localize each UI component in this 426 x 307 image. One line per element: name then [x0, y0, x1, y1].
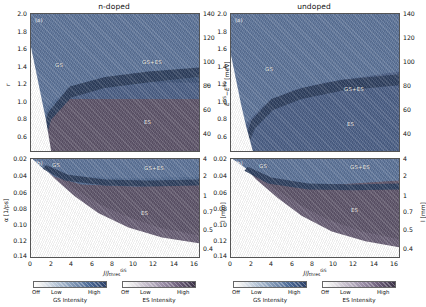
panel-label-a-left: (a)	[35, 17, 43, 23]
ytick-top-left-1: 1.8	[6, 28, 27, 35]
ytick-bot-right-2: 0.06	[203, 189, 227, 196]
region-label-es: ES	[144, 119, 151, 125]
ytick-bot-right-3: 0.08	[203, 205, 227, 212]
ytick-bot-left-2: 0.06	[3, 189, 27, 196]
colorbar-gs-left-tick-high: High	[88, 289, 100, 295]
region-label-gs: GS	[259, 163, 267, 169]
ytick-top-left-right-4: 60	[203, 106, 211, 113]
ylabel-top-left: r	[4, 84, 11, 86]
ytick-top-left-3: 1.4	[6, 63, 27, 70]
xlabel-left: J/JthresGS	[80, 268, 150, 277]
colorbar-gs-right-tick-off: Off	[232, 289, 240, 295]
ytick-bot-right-right-4: 0.5	[403, 226, 413, 233]
xtick-right-6: 12	[346, 260, 360, 267]
region-label-gs-es: GS+ES	[350, 164, 370, 170]
xtick-right-5: 10	[326, 260, 340, 267]
ytick-bot-right-0: 0.02	[203, 155, 227, 162]
xtick-left-6: 12	[146, 260, 160, 267]
ytick-bot-right-right-2: 1	[403, 192, 407, 199]
column-title-left: n-doped	[28, 2, 200, 11]
ytick-top-right-right-4: 60	[403, 106, 411, 113]
ytick-top-right-right-2: 100	[403, 58, 415, 65]
ytick-top-right-0: 2.0	[206, 10, 227, 17]
panel-label-a-right: (a)	[235, 17, 243, 23]
ytick-bot-right-4: 0.10	[203, 221, 227, 228]
ytick-bot-right-right-0: 4	[403, 155, 407, 162]
ylabel-bot-left: α [1/ps]	[2, 199, 9, 222]
colorbar-gs-left-caption: GS Intensity	[33, 297, 107, 303]
colorbar-es-right-tick-high: High	[377, 289, 389, 295]
colorbar-es-left-caption: ES Intensity	[122, 297, 196, 303]
colorbar-es-left[interactable]	[122, 281, 196, 288]
ytick-bot-right-6: 0.14	[203, 252, 227, 259]
colorbar-es-right-caption: ES Intensity	[322, 297, 396, 303]
xtick-left-1: 2	[44, 260, 58, 267]
xtick-right-8: 16	[387, 260, 401, 267]
panel-label-b-right: (b)	[235, 160, 243, 166]
panel-label-b-left: (b)	[35, 160, 43, 166]
ytick-bot-right-1: 0.04	[203, 172, 227, 179]
xlabel-right: J/JthresGS	[280, 268, 350, 277]
ytick-top-right-5: 1.0	[206, 98, 227, 105]
panel-a-left-plot: (a) GS GS+ES ES	[30, 13, 200, 152]
xtick-left-2: 4	[64, 260, 78, 267]
colorbar-gs-right[interactable]	[233, 281, 307, 288]
colorbar-es-right-tick-low: Low	[340, 289, 351, 295]
region-label-gs-es: GS+ES	[142, 59, 162, 65]
colorbar-es-left-tick-low: Low	[140, 289, 151, 295]
ytick-top-right-3: 1.4	[206, 63, 227, 70]
ytick-bot-right-right-3: 0.7	[403, 208, 413, 215]
xtick-left-4: 8	[105, 260, 119, 267]
colorbar-hatch	[123, 282, 195, 287]
region-label-gs-es: GS+ES	[344, 86, 364, 92]
xtick-right-1: 2	[244, 260, 258, 267]
region-label-gs: GS	[265, 66, 273, 72]
region-label-gs: GS	[52, 162, 60, 168]
ylabel-top-right: r	[204, 84, 211, 86]
ytick-top-right-7: 0.6	[206, 133, 227, 140]
region-label-es: ES	[351, 207, 358, 213]
region-label-gs-es: GS+ES	[144, 165, 164, 171]
colorbar-hatch	[234, 282, 306, 287]
ytick-bot-right-right-5: 0.4	[403, 245, 413, 252]
ytick-bot-right-right-1: 2	[403, 172, 407, 179]
ytick-top-right-right-5: 40	[403, 130, 411, 137]
xtick-left-7: 14	[167, 260, 181, 267]
colorbar-es-left-tick-high: High	[177, 289, 189, 295]
region-label-es: ES	[141, 210, 148, 216]
panel-a-right-plot: (a) GS GS+ES ES	[230, 13, 400, 152]
xtick-left-0: 0	[23, 260, 37, 267]
region-label-es: ES	[347, 121, 354, 127]
xtick-right-4: 8	[305, 260, 319, 267]
ylabel-bot-right-right: l [mm]	[419, 202, 426, 222]
ytick-top-right-right-0: 140	[403, 10, 415, 17]
xtick-left-5: 10	[126, 260, 140, 267]
colorbar-gs-left[interactable]	[33, 281, 107, 288]
xtick-left-3: 6	[85, 260, 99, 267]
ytick-bot-right-5: 0.12	[203, 237, 227, 244]
colorbar-gs-right-tick-high: High	[288, 289, 300, 295]
ytick-bot-left-4: 0.10	[3, 221, 27, 228]
xtick-right-0: 0	[223, 260, 237, 267]
xtick-right-7: 14	[367, 260, 381, 267]
colorbar-es-right[interactable]	[322, 281, 396, 288]
column-title-right: undoped	[228, 2, 400, 11]
panel-b-left-plot: (b) GS GS+ES ES	[30, 158, 200, 258]
ytick-top-left-right-1: 120	[203, 34, 215, 41]
colorbar-gs-right-caption: GS Intensity	[233, 297, 307, 303]
colorbar-gs-right-tick-low: Low	[251, 289, 262, 295]
colorbar-hatch	[323, 282, 395, 287]
region-label-gs: GS	[55, 62, 63, 68]
ytick-top-left-7: 0.6	[6, 133, 27, 140]
colorbar-gs-left-tick-low: Low	[51, 289, 62, 295]
xtick-right-3: 6	[285, 260, 299, 267]
xtick-right-2: 4	[264, 260, 278, 267]
ytick-bot-left-5: 0.12	[3, 237, 27, 244]
colorbar-hatch	[34, 282, 106, 287]
panel-b-right-plot: (b) GS GS+ES ES	[230, 158, 400, 258]
ytick-top-left-0: 2.0	[6, 10, 27, 17]
colorbar-es-right-tick-off: Off	[321, 289, 329, 295]
ytick-top-left-5: 1.0	[6, 98, 27, 105]
ytick-bot-left-0: 0.02	[3, 155, 27, 162]
